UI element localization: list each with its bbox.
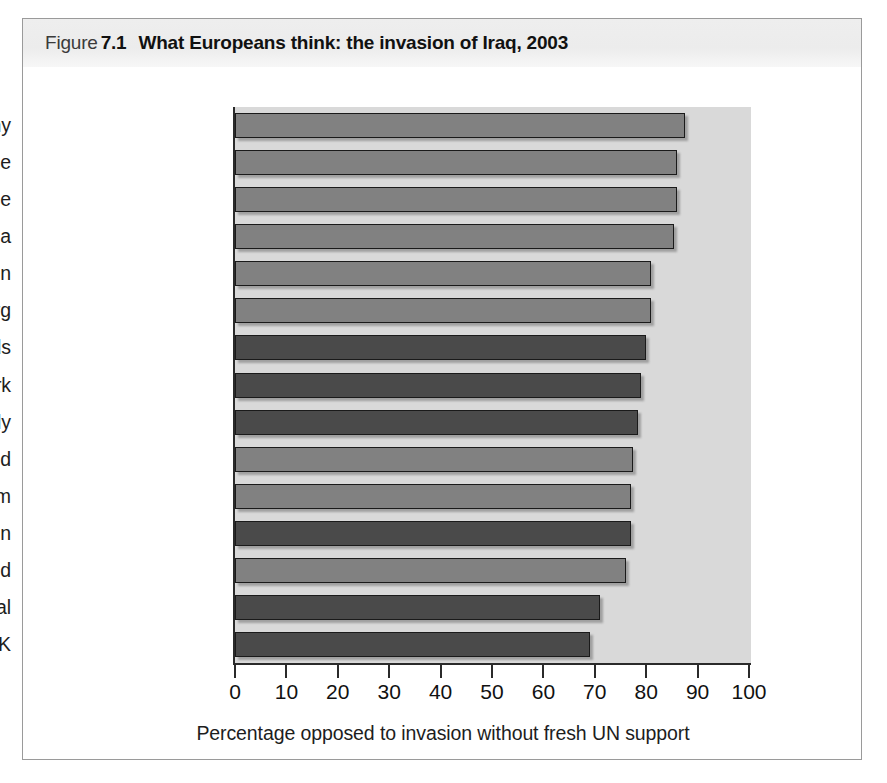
bar-track (235, 632, 749, 657)
x-axis-tick-mark (645, 665, 647, 678)
x-axis-tick-label: 80 (635, 680, 658, 704)
bar-category-label: Netherlands (0, 336, 23, 359)
bar-row: Germany (23, 113, 749, 138)
bar-rows: GermanyFranceGreeceAustriaSwedenLuxembou… (23, 107, 749, 663)
bar-row: France (23, 150, 749, 175)
figure-frame: Figure7.1What Europeans think: the invas… (22, 18, 862, 760)
bar (235, 113, 685, 138)
figure-title: What Europeans think: the invasion of Ir… (138, 32, 568, 53)
x-axis-tick-label: 20 (326, 680, 349, 704)
bar-category-label: Italy (0, 411, 23, 434)
x-axis-tick-label: 70 (583, 680, 606, 704)
figure-label-word: Figure (45, 32, 98, 53)
bar (235, 261, 651, 286)
bar (235, 595, 600, 620)
bar-track (235, 113, 749, 138)
x-axis-tick-mark (594, 665, 596, 678)
bar-row: Spain (23, 521, 749, 546)
bar-track (235, 224, 749, 249)
bar (235, 150, 677, 175)
x-axis-tick-mark (337, 665, 339, 678)
bar-category-label: France (0, 151, 23, 174)
x-axis-tick-label: 0 (229, 680, 241, 704)
bar-row: Denmark (23, 373, 749, 398)
bar (235, 484, 631, 509)
bar-row: Belgium (23, 484, 749, 509)
bar (235, 298, 651, 323)
bar-track (235, 187, 749, 212)
bar (235, 410, 638, 435)
bar-category-label: Greece (0, 188, 23, 211)
x-axis-tick-mark (234, 665, 236, 678)
bar-track (235, 410, 749, 435)
x-axis-tick-label: 100 (731, 680, 766, 704)
figure-number: 7.1 (101, 32, 127, 53)
bar-track (235, 521, 749, 546)
x-axis-title: Percentage opposed to invasion without f… (23, 722, 863, 745)
figure-caption: Figure7.1What Europeans think: the invas… (45, 32, 568, 54)
x-axis-tick-label: 30 (378, 680, 401, 704)
bar-row: Netherlands (23, 335, 749, 360)
bar (235, 187, 677, 212)
x-axis-tick-mark (440, 665, 442, 678)
x-axis: 0102030405060708090100 (233, 665, 751, 723)
bar-row: Austria (23, 224, 749, 249)
x-axis-tick-label: 50 (480, 680, 503, 704)
bar-row: Sweden (23, 261, 749, 286)
figure-caption-band: Figure7.1What Europeans think: the invas… (23, 19, 861, 67)
bar-category-label: Portugal (0, 596, 23, 619)
bar-track (235, 595, 749, 620)
bar-track (235, 335, 749, 360)
bar-track (235, 447, 749, 472)
chart-area: GermanyFranceGreeceAustriaSwedenLuxembou… (23, 67, 863, 761)
x-axis-tick-label: 10 (275, 680, 298, 704)
x-axis-tick-mark (542, 665, 544, 678)
x-axis-tick-mark (697, 665, 699, 678)
x-axis-tick-mark (748, 665, 750, 678)
bar-category-label: Belgium (0, 485, 23, 508)
x-axis-tick-mark (388, 665, 390, 678)
bar-track (235, 373, 749, 398)
bar (235, 447, 633, 472)
bar-row: Finland (23, 447, 749, 472)
bar-track (235, 150, 749, 175)
bar (235, 521, 631, 546)
bar (235, 335, 646, 360)
x-axis-tick-label: 60 (532, 680, 555, 704)
bar-row: Ireland (23, 558, 749, 583)
bar-track (235, 261, 749, 286)
bar-row: Italy (23, 410, 749, 435)
bar-category-label: Austria (0, 225, 23, 248)
bar-category-label: Ireland (0, 559, 23, 582)
bar-category-label: Finland (0, 448, 23, 471)
bar-row: Greece (23, 187, 749, 212)
bar-category-label: Germany (0, 114, 23, 137)
bar (235, 224, 674, 249)
bar-row: Luxembourg (23, 298, 749, 323)
bar (235, 558, 626, 583)
x-axis-tick-label: 40 (429, 680, 452, 704)
bar-row: Portugal (23, 595, 749, 620)
bar-category-label: Denmark (0, 374, 23, 397)
bar-category-label: Spain (0, 522, 23, 545)
bar (235, 632, 590, 657)
x-axis-tick-mark (491, 665, 493, 678)
bar-category-label: Luxembourg (0, 299, 23, 322)
bar-track (235, 298, 749, 323)
bar-row: UK (23, 632, 749, 657)
x-axis-tick-label: 90 (686, 680, 709, 704)
bar-track (235, 484, 749, 509)
bar-track (235, 558, 749, 583)
bar-category-label: UK (0, 633, 23, 656)
bar-category-label: Sweden (0, 262, 23, 285)
bar (235, 373, 641, 398)
x-axis-tick-mark (285, 665, 287, 678)
